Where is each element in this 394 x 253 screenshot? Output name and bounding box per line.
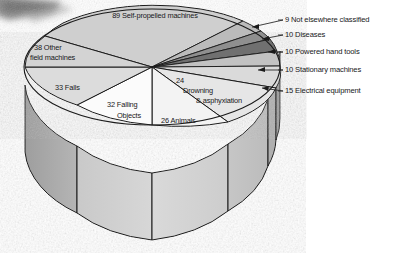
slice-label-other-field-machines-line1: 38 Other xyxy=(34,44,62,53)
slice-label-self-propelled-machines: 89 Self-propelled machines xyxy=(80,12,230,21)
callout-label-electrical-equipment: 15 Electrical equipment xyxy=(285,87,360,96)
callout-label-powered-hand-tools: 10 Powered hand tools xyxy=(285,48,360,57)
slice-label-falling-objects-line1: 32 Falling xyxy=(107,101,138,110)
slice-label-animals: 26 Animals xyxy=(161,117,196,126)
slice-label-falls: 33 Falls xyxy=(55,84,80,93)
callout-label-diseases: 10 Diseases xyxy=(285,31,325,40)
slice-label-falling-objects-line2: Objects xyxy=(117,112,141,121)
slice-label-drowning-line1: Drowning xyxy=(183,87,213,96)
slice-label-drowning-line2: & asphyxiation xyxy=(196,97,242,106)
callout-label-not-elsewhere-classified: 9 Not elsewhere classified xyxy=(285,16,369,25)
callout-label-stationary-machines: 10 Stationary machines xyxy=(285,66,361,75)
pie-chart-figure: 89 Self-propelled machines 38 Other fiel… xyxy=(0,0,394,253)
pencil-smudge xyxy=(0,0,72,22)
pie-chart-svg xyxy=(0,0,394,253)
slice-label-drowning-value: 24 xyxy=(176,77,184,86)
slice-label-other-field-machines-line2: field machines xyxy=(30,54,75,63)
